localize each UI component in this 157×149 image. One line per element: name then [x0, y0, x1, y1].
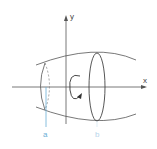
x-axis-arrow-icon: [141, 85, 147, 89]
diagram-canvas: y x a b: [0, 0, 157, 149]
lower-curve: [36, 107, 136, 121]
y-axis-label: y: [70, 13, 74, 21]
y-axis-arrow-icon: [64, 15, 68, 21]
bound-label-b: b: [95, 131, 99, 139]
left-disc-front: [41, 63, 46, 110]
upper-curve: [36, 52, 136, 65]
bound-label-a: a: [43, 131, 47, 139]
x-axis-label: x: [143, 77, 147, 85]
revolution-diagram: [0, 0, 157, 149]
